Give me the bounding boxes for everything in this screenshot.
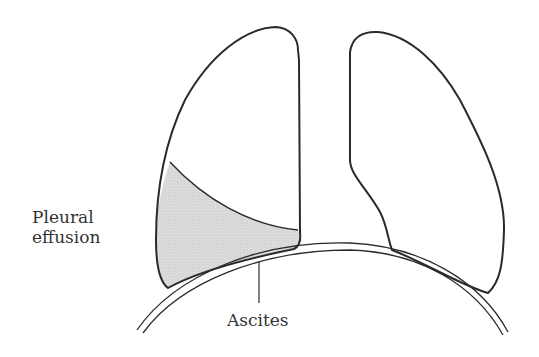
ascites-label: Ascites <box>227 310 289 330</box>
pleural-effusion-label: Pleural effusion <box>32 207 100 247</box>
pleural-effusion-label-line1: Pleural <box>32 207 100 227</box>
pleural-effusion-label-line2: effusion <box>32 227 100 247</box>
right-lung-outline <box>350 32 504 293</box>
lungs-diagram <box>0 0 539 357</box>
pleural-effusion-region <box>156 162 300 288</box>
